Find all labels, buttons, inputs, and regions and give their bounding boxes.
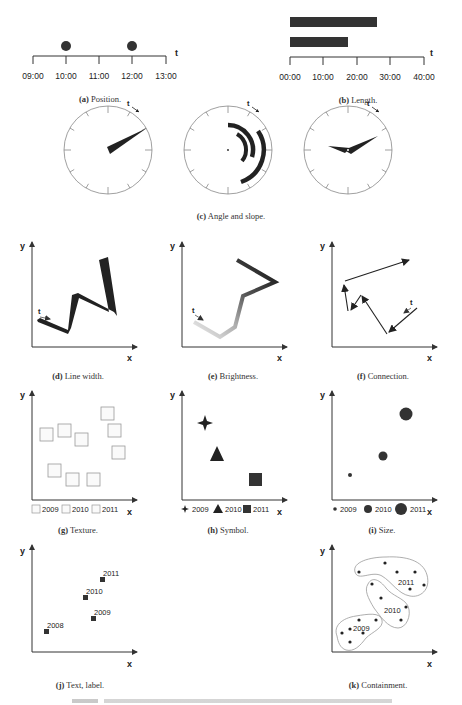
x-axis-label: x <box>277 353 282 363</box>
panel-c-clocks: t t t <box>0 105 462 225</box>
y-axis-label: y <box>20 390 25 400</box>
caption-k: (k) Containment. <box>349 680 408 690</box>
caption-i: (i) Size. <box>369 525 396 535</box>
connected-arrows <box>344 260 417 334</box>
panel-i-size: y x 2009 2010 2011 <box>305 385 462 520</box>
svg-text:2009: 2009 <box>340 505 357 514</box>
panel-b-length-bars: t 00:00 10:00 20:00 30:00 40:00 <box>231 0 462 110</box>
y-axis-label: y <box>320 546 325 556</box>
point-label: 2008 <box>47 621 64 630</box>
tick-label: 12:00 <box>121 71 143 81</box>
duration-bar-1 <box>290 17 377 27</box>
svg-text:2011: 2011 <box>253 505 269 514</box>
caption-d: (d) Line width. <box>52 371 104 381</box>
group-label: 2011 <box>398 578 414 587</box>
tick-label: 10:00 <box>312 72 334 82</box>
tick-label: 13:00 <box>155 71 177 81</box>
caption-e: (e) Brightness. <box>208 371 258 381</box>
triangle-symbol <box>210 446 224 461</box>
caption-c: (c) Angle and slope. <box>197 211 265 221</box>
textured-squares <box>40 407 125 486</box>
caption-g: (g) Texture. <box>58 525 98 535</box>
x-axis-label: x <box>127 507 132 517</box>
panel-g-texture: y x 2009 2010 2011 <box>0 385 160 520</box>
axis-label-t: t <box>175 48 178 58</box>
group-label: 2009 <box>353 624 370 633</box>
svg-text:2011: 2011 <box>102 505 118 514</box>
clock-wedge: t <box>64 99 152 194</box>
y-axis-label: y <box>20 546 25 556</box>
caption-b: (b) Length. <box>339 95 378 105</box>
panel-d-line-width: y x t <box>0 230 160 370</box>
svg-text:2011: 2011 <box>410 505 426 514</box>
panel-e-brightness: y x t <box>155 230 315 370</box>
caption-f: (f) Connection. <box>357 371 409 381</box>
svg-text:t: t <box>38 307 41 316</box>
tick-label: 10:00 <box>55 71 77 81</box>
figure-caption-illegible <box>72 699 392 703</box>
caption-a: (a) Position. <box>79 94 121 104</box>
y-axis-label: y <box>170 241 175 251</box>
point-label: 2009 <box>94 608 111 617</box>
svg-text:2010: 2010 <box>375 505 392 514</box>
caption-j: (j) Text, label. <box>56 680 104 690</box>
x-axis-label: x <box>427 507 432 517</box>
panel-f-connection: y x t <box>305 230 462 370</box>
tick-label: 11:00 <box>89 71 110 81</box>
legend: 2009 2010 2011 <box>32 505 118 514</box>
axis-label-t: t <box>430 48 433 58</box>
caption-h: (h) Symbol. <box>207 525 248 535</box>
svg-text:2010: 2010 <box>225 505 242 514</box>
legend: 2009 2010 2011 <box>181 504 269 514</box>
panel-h-symbol: y x 2009 2010 2011 <box>155 385 315 520</box>
x-axis-label: x <box>127 659 132 669</box>
brightness-encoded-line <box>194 260 275 337</box>
point-label: 2011 <box>103 569 119 578</box>
group-label: 2010 <box>384 606 401 615</box>
svg-text:t: t <box>410 298 413 307</box>
x-axis-label: x <box>277 507 282 517</box>
x-axis-label: x <box>427 659 432 669</box>
panel-k-containment: y x 2011 2010 2009 <box>300 540 462 680</box>
tick-label: 30:00 <box>379 72 401 82</box>
size-point-2011 <box>400 408 413 421</box>
square-symbol <box>249 473 262 486</box>
svg-text:t: t <box>192 306 195 315</box>
y-axis-label: y <box>320 390 325 400</box>
svg-text:2010: 2010 <box>72 505 89 514</box>
size-point-2009 <box>348 473 352 477</box>
duration-bar-2 <box>290 37 348 47</box>
star-symbol <box>197 415 213 431</box>
y-axis-label: y <box>170 390 175 400</box>
y-axis-label: y <box>20 241 25 251</box>
point-label: 2010 <box>86 587 103 596</box>
width-encoded-line <box>37 257 117 334</box>
legend: 2009 2010 2011 <box>333 503 426 515</box>
x-axis-label: x <box>127 353 132 363</box>
x-axis-label: x <box>427 353 432 363</box>
clock-arcs: t <box>184 99 272 194</box>
tick-label: 20:00 <box>346 72 368 82</box>
group-outline-2011 <box>355 557 428 596</box>
event-dot-1000 <box>61 41 71 51</box>
svg-text:2009: 2009 <box>192 505 209 514</box>
tick-label: 40:00 <box>413 72 435 82</box>
y-axis-label: y <box>320 241 325 251</box>
panel-j-text-label: y x 2008 2009 2010 2011 <box>0 540 160 680</box>
svg-text:2009: 2009 <box>42 505 59 514</box>
event-dot-1200 <box>127 41 137 51</box>
clock-hands: t <box>304 99 392 194</box>
size-point-2010 <box>379 452 388 461</box>
tick-label: 09:00 <box>22 71 44 81</box>
tick-label: 00:00 <box>279 72 301 82</box>
